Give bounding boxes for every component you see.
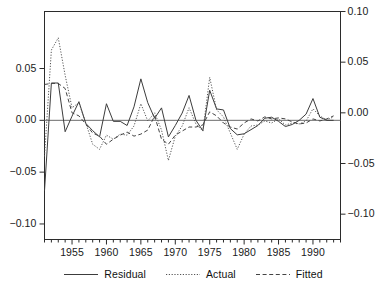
y-left-tick-label-1: 0.00 (0, 113, 37, 125)
y-right-tick-label-3: −0.05 (348, 157, 375, 169)
y-left-tick-label-3: −0.10 (0, 217, 37, 229)
series-line-actual (45, 38, 334, 161)
legend-swatch-residual (64, 274, 98, 275)
legend-label-actual: Actual (206, 268, 236, 280)
axis-ticks (40, 12, 346, 245)
legend-item-fitted: Fitted (256, 268, 323, 280)
legend-swatch-actual (166, 274, 200, 275)
legend-label-residual: Residual (104, 268, 146, 280)
x-tick-label-1990: 1990 (293, 246, 333, 258)
y-right-tick-label-4: −0.10 (348, 207, 375, 219)
legend-swatch-fitted (256, 274, 290, 275)
y-left-tick-label-0: 0.05 (0, 62, 37, 74)
y-right-tick-label-1: 0.05 (348, 55, 369, 67)
y-right-tick-label-2: 0.00 (348, 106, 369, 118)
legend-item-actual: Actual (166, 268, 236, 280)
series-line-fitted (45, 83, 334, 144)
legend-label-fitted: Fitted (296, 268, 323, 280)
y-left-tick-label-2: −0.05 (0, 165, 37, 177)
y-right-tick-label-0: 0.10 (348, 5, 369, 17)
legend-item-residual: Residual (64, 268, 146, 280)
residual-actual-fitted-chart: 195519601965197019751980198519900.050.00… (0, 0, 387, 296)
series-lines (45, 38, 334, 191)
chart-legend: Residual Actual Fitted (0, 268, 387, 280)
plot-frame (45, 12, 341, 240)
series-line-residual (45, 79, 334, 191)
